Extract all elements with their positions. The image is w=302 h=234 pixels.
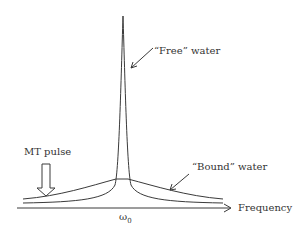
- bound-water-pointer: [170, 174, 189, 190]
- free-water-pointer: [131, 48, 153, 68]
- diagram-graphics: [0, 0, 302, 234]
- free-water-label: “Free” water: [154, 45, 220, 56]
- omega-subscript: 0: [127, 217, 131, 225]
- omega-symbol: ω: [119, 211, 127, 222]
- mt-pulse-label: MT pulse: [24, 146, 71, 157]
- bound-water-label: “Bound” water: [192, 161, 267, 172]
- omega0-label: ω0: [119, 211, 132, 225]
- mt-spectrum-diagram: “Free” water “Bound” water MT pulse Freq…: [0, 0, 302, 234]
- mt-pulse-arrow-icon: [37, 164, 55, 196]
- frequency-axis-label: Frequency: [238, 202, 292, 213]
